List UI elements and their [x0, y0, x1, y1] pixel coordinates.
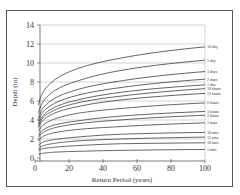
x-tick-label: 20 [65, 164, 73, 173]
x-tick-label: 0 [33, 164, 37, 173]
idf-depth-chart: 02468101214020406080100 10 day5 day3 day… [0, 0, 240, 195]
y-tick-label: 12 [26, 40, 34, 49]
series-label: 3 days [207, 69, 218, 74]
series-label: 5 day [207, 58, 216, 63]
y-tick-label: 0 [30, 154, 34, 163]
curve-10-min- [38, 143, 205, 151]
series-label: 5 min. [207, 147, 217, 152]
y-tick-label: 6 [30, 97, 34, 106]
y-tick-label: 8 [30, 78, 34, 87]
series-label: 12 hours [207, 91, 221, 96]
y-tick-label: 10 [26, 59, 34, 68]
x-tick-label: 60 [133, 164, 141, 173]
curve-6-hours [38, 103, 205, 131]
x-axis-title: Return Period (years) [92, 176, 153, 184]
y-tick-label: 4 [30, 116, 34, 125]
series-labels: 10 day5 day3 days2 days1 day18 hours12 h… [207, 44, 221, 152]
series-label: 10 day [207, 44, 218, 49]
curve-3-hours [38, 111, 205, 135]
series-label: 1 hour [207, 120, 218, 125]
series-label: 2 days [207, 77, 218, 82]
curve-5-min- [38, 149, 205, 154]
y-tick-label: 14 [26, 21, 34, 30]
y-tick-label: 2 [30, 135, 34, 144]
series-label: 15 min. [207, 135, 219, 140]
x-tick-label: 80 [167, 164, 175, 173]
series-label: 6 hours [207, 100, 219, 105]
y-axis-title: Depth (in) [11, 77, 19, 107]
x-tick-label: 40 [99, 164, 107, 173]
curve-2-hours [38, 115, 205, 137]
series-label: 2 hours [207, 113, 219, 118]
curve-12-hours [38, 93, 205, 127]
x-tick-label: 100 [199, 164, 211, 173]
series-label: 10 min. [207, 140, 219, 145]
